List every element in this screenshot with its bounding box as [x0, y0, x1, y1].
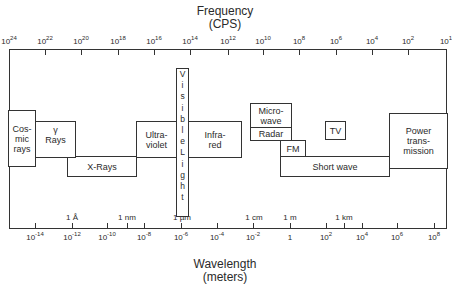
freq-tick [45, 49, 46, 55]
wavelength-tick-label: 10-14 [26, 233, 44, 242]
freq-tick [263, 49, 264, 55]
band-infrared: Infra- red [188, 121, 242, 158]
wavelength-tick-label: 10-4 [210, 233, 224, 242]
freq-tick [81, 49, 82, 55]
frequency-tick-label: 1018 [110, 37, 126, 46]
frequency-tick-label: 102 [402, 37, 414, 46]
unit-cm: 1 cm [245, 213, 262, 222]
frequency-tick-label: 106 [330, 37, 342, 46]
wave-tick [181, 223, 182, 229]
wavelength-tick-label: 10-8 [137, 233, 151, 242]
wavelength-tick-label: 1 [288, 233, 292, 242]
wave-tick [397, 223, 398, 229]
band-gamma-rays: γ Rays [35, 121, 76, 158]
wave-tick [127, 223, 128, 229]
wavelength-tick-label: 10-2 [246, 233, 260, 242]
wave-tick [344, 223, 345, 229]
freq-tick [228, 49, 229, 55]
frequency-tick-label: 108 [293, 37, 305, 46]
frequency-tick-label: 1012 [220, 37, 236, 46]
wave-tick [144, 223, 145, 229]
band-x-rays: X-Rays [67, 156, 137, 177]
wavelength-tick-label: 106 [391, 233, 403, 242]
wave-tick [434, 223, 435, 229]
wave-tick [290, 223, 291, 229]
freq-tick [372, 49, 373, 55]
freq-tick [190, 49, 191, 55]
unit-m: 1 m [283, 213, 296, 222]
band-radar: Radar [250, 127, 292, 141]
frequency-axis-title: Frequency (CPS) [175, 5, 275, 31]
freq-tick [299, 49, 300, 55]
band-microwave: Micro- wave [250, 103, 292, 128]
freq-tick [408, 49, 409, 55]
frequency-tick-label: 101 [440, 37, 452, 46]
wavelength-axis-title: Wavelength (meters) [175, 258, 275, 284]
wavelength-tick-label: 10-10 [98, 233, 116, 242]
wave-tick [217, 223, 218, 229]
unit-nm: 1 nm [118, 213, 136, 222]
band-tv: TV [325, 121, 346, 140]
wave-tick [362, 223, 363, 229]
frequency-tick-label: 1016 [146, 37, 162, 46]
frequency-tick-label: 1024 [1, 37, 17, 46]
frequency-tick-label: 1014 [182, 37, 198, 46]
wave-tick [326, 223, 327, 229]
wave-tick [107, 223, 108, 229]
frequency-tick-label: 1010 [255, 37, 271, 46]
freq-tick [118, 49, 119, 55]
wave-tick [35, 223, 36, 229]
band-power-transmission: Power trans- mission [389, 113, 448, 169]
band-fm: FM [280, 140, 306, 157]
wave-tick [72, 223, 73, 229]
unit-km: 1 km [335, 213, 352, 222]
freq-tick [336, 49, 337, 55]
band-visible-light: V i s i b l e L i g h t [176, 68, 189, 217]
wavelength-tick-label: 104 [356, 233, 368, 242]
wavelength-tick-label: 10-12 [63, 233, 81, 242]
frequency-tick-label: 1022 [37, 37, 53, 46]
frequency-tick-label: 104 [366, 37, 378, 46]
wavelength-tick-label: 10-6 [174, 233, 188, 242]
wavelength-tick-label: 102 [320, 233, 332, 242]
wavelength-tick-label: 108 [428, 233, 440, 242]
frequency-tick-label: 1020 [73, 37, 89, 46]
band-ultraviolet: Ultra- violet [136, 121, 177, 158]
band-cosmic-rays: Cos- mic rays [8, 110, 36, 167]
unit-angstrom: 1 Å [66, 213, 78, 222]
band-short-wave: Short wave [280, 156, 390, 177]
freq-tick [154, 49, 155, 55]
wave-tick [253, 223, 254, 229]
